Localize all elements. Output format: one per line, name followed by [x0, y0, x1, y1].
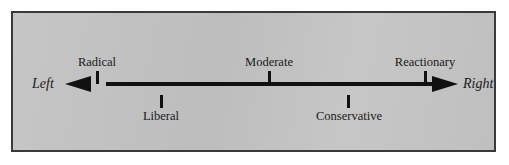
tick-mark-liberal: [160, 95, 163, 108]
figure-frame: Left Right Radical Liberal Moderate Cons…: [11, 11, 496, 152]
spectrum-label-conservative: Conservative: [316, 109, 382, 124]
tick-mark-conservative: [347, 95, 350, 108]
tick-mark-radical: [96, 71, 99, 84]
spectrum-label-radical: Radical: [78, 55, 116, 70]
spectrum-label-moderate: Moderate: [245, 55, 293, 70]
spectrum-label-liberal: Liberal: [143, 109, 179, 124]
axis-end-label-right: Right: [463, 76, 493, 92]
arrow-left-icon: [65, 76, 91, 92]
arrow-right-icon: [432, 76, 458, 92]
tick-mark-moderate: [268, 71, 271, 84]
spectrum-label-reactionary: Reactionary: [395, 55, 455, 70]
tick-mark-reactionary: [424, 71, 427, 84]
axis-end-label-left: Left: [32, 76, 54, 92]
axis-line: [106, 82, 436, 86]
